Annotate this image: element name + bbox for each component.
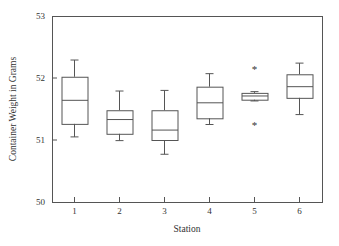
boxplot-chart: 50515253 123456 ** Station Container Wei… [0,0,339,246]
x-tick-label: 2 [117,206,122,216]
y-axis-title: Container Weight in Grams [8,57,18,162]
y-tick-label: 53 [36,11,46,21]
outlier-marker: * [252,119,258,131]
y-tick-label: 51 [36,135,45,145]
x-tick-label: 1 [72,206,77,216]
y-tick-label: 52 [36,73,45,83]
x-tick-label: 3 [162,206,167,216]
y-tick-label: 50 [36,197,46,207]
x-tick-label: 4 [207,206,212,216]
x-axis-title: Station [174,224,201,234]
chart-svg: 50515253 123456 ** Station Container Wei… [0,0,339,246]
outlier-marker: * [252,63,258,75]
chart-background [0,0,339,246]
x-tick-label: 6 [297,206,302,216]
x-tick-label: 5 [252,206,257,216]
